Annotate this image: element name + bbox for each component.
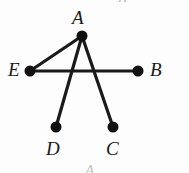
vertex-label-C: C [106, 139, 119, 158]
graph-edge-A-C [82, 36, 113, 127]
graph-node-A [77, 31, 88, 42]
graph-node-D [51, 122, 62, 133]
graph-node-B [133, 66, 144, 77]
graph-figure: g A B C D E A [0, 0, 189, 173]
clipped-bottom-text: A [85, 162, 94, 173]
vertex-label-E: E [8, 60, 20, 79]
vertex-label-B: B [150, 60, 162, 79]
edges-group [30, 36, 138, 127]
graph-node-C [108, 122, 119, 133]
vertex-label-A: A [72, 8, 84, 27]
vertex-label-D: D [46, 139, 60, 158]
graph-node-E [25, 66, 36, 77]
graph-canvas [0, 0, 189, 173]
